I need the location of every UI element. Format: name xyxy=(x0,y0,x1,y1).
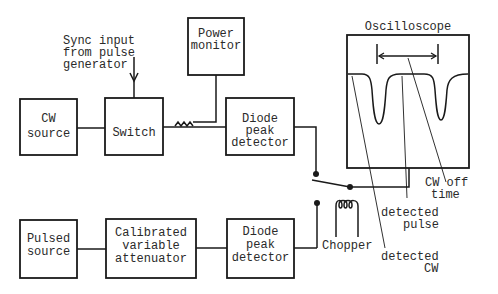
attenuator-label-1: Calibrated xyxy=(115,226,187,240)
diode-bottom-label-2: peak xyxy=(246,238,275,252)
pulsed-source-label-1: Pulsed xyxy=(27,232,70,246)
leader-detected-pulse xyxy=(402,76,407,198)
resistor-icon xyxy=(175,122,193,126)
diode-top-label-3: detector xyxy=(231,136,289,150)
wire-diode-top-to-contact xyxy=(294,127,316,174)
wire-to-power-monitor xyxy=(193,75,216,122)
contact-bottom xyxy=(314,200,320,206)
block-diagram: CW source Switch Sync input from pulse g… xyxy=(0,0,498,294)
attenuator-label-2: variable xyxy=(122,239,180,253)
diode-bottom-label-3: detector xyxy=(232,251,290,265)
oscilloscope-label: Oscilloscope xyxy=(365,20,451,34)
pulsed-source-block: Pulsed source xyxy=(20,220,77,278)
diode-peak-detector-bottom-block: Diode peak detector xyxy=(227,219,294,278)
cw-off-time-marker xyxy=(377,44,438,64)
calibrated-attenuator-block: Calibrated variable attenuator xyxy=(106,219,196,278)
power-monitor-label-2: monitor xyxy=(191,39,241,53)
cw-source-label-1: CW xyxy=(41,112,56,126)
cw-source-label-2: source xyxy=(27,127,70,141)
switch-label: Switch xyxy=(112,126,155,140)
chopper-coil-icon xyxy=(336,201,358,238)
chopper-label: Chopper xyxy=(322,239,372,253)
contact-top xyxy=(313,171,319,177)
diode-peak-detector-top-block: Diode peak detector xyxy=(226,98,294,155)
cw-off-time-label-2: time xyxy=(431,188,460,202)
leader-detected-cw xyxy=(352,76,385,248)
power-monitor-block: Power monitor xyxy=(188,18,244,75)
sync-input-label-3: generator xyxy=(63,58,128,72)
pulsed-source-label-2: source xyxy=(27,245,70,259)
oscilloscope-screen xyxy=(347,35,469,168)
chopper-switch-arm xyxy=(312,180,350,187)
attenuator-label-3: attenuator xyxy=(115,252,187,266)
cw-source-block: CW source xyxy=(20,99,77,155)
sync-input: Sync input from pulse generator xyxy=(63,34,138,98)
detected-cw-label-2: CW xyxy=(424,262,439,276)
waveform-trace xyxy=(348,74,468,124)
wire-to-oscilloscope xyxy=(350,168,409,187)
diode-bottom-label-1: Diode xyxy=(242,225,278,239)
switch-block: Switch xyxy=(105,98,163,155)
detected-pulse-label-2: pulse xyxy=(403,218,439,232)
